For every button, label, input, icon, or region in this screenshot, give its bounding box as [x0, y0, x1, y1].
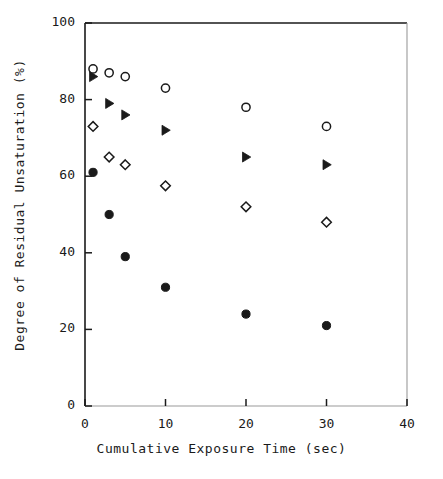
data-point — [161, 181, 171, 191]
series-filled-circle — [89, 168, 331, 329]
x-tick-label: 0 — [65, 416, 105, 431]
data-point — [161, 283, 169, 291]
x-tick-label: 30 — [307, 416, 347, 431]
x-axis-label: Cumulative Exposure Time (sec) — [0, 441, 443, 456]
y-tick-label: 20 — [35, 320, 75, 335]
data-point — [241, 202, 251, 212]
data-point — [121, 73, 129, 81]
y-tick-label: 40 — [35, 244, 75, 259]
data-point — [322, 217, 332, 227]
data-point — [242, 103, 250, 111]
data-point — [104, 152, 114, 162]
data-point — [323, 160, 331, 170]
y-tick-label: 60 — [35, 167, 75, 182]
data-point — [322, 321, 330, 329]
series-open-circle — [89, 65, 331, 131]
data-point — [105, 210, 113, 218]
series-filled-triangle — [90, 72, 332, 170]
data-point — [242, 310, 250, 318]
y-axis-label: Degree of Residual Unsaturation (%) — [12, 15, 38, 395]
x-tick-label: 20 — [226, 416, 266, 431]
data-point — [322, 122, 330, 130]
y-tick-label: 100 — [35, 14, 75, 29]
data-point — [88, 122, 98, 132]
data-point — [105, 69, 113, 77]
y-tick-label: 0 — [35, 397, 75, 412]
axis-frame — [85, 23, 407, 406]
data-point — [122, 110, 130, 120]
data-point — [243, 152, 251, 162]
data-point — [106, 98, 114, 108]
data-point — [162, 125, 170, 135]
data-point — [89, 168, 97, 176]
data-point — [121, 253, 129, 261]
figure-scatter-plot: Cumulative Exposure Time (sec) Degree of… — [0, 0, 443, 479]
axis-ticks — [85, 23, 407, 406]
x-tick-label: 40 — [387, 416, 427, 431]
data-point — [161, 84, 169, 92]
series-open-diamond — [88, 122, 331, 227]
x-tick-label: 10 — [146, 416, 186, 431]
y-tick-label: 80 — [35, 91, 75, 106]
data-point — [120, 160, 130, 170]
